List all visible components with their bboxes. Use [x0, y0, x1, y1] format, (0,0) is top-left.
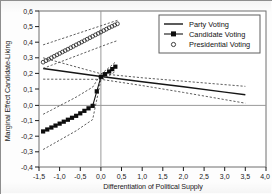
- y-tick-label: 0,1: [23, 86, 33, 93]
- x-tick-label: -1,0: [54, 173, 66, 180]
- chart-legend: Party Voting Candidate Voting Presidenti…: [159, 15, 260, 53]
- marker-candidate: [78, 111, 82, 115]
- y-tick-label: -0,4: [21, 164, 33, 171]
- x-tick-label: 1,0: [137, 173, 147, 180]
- x-tick-label: 0,5: [117, 173, 127, 180]
- y-tick-label: -0,2: [21, 133, 33, 140]
- figure-container: 0,6 0,5 0,4 0,3 0,2 0,1 0,0 -0,1 -0,2 -0…: [0, 0, 272, 194]
- y-tick-label: 0,4: [23, 39, 33, 46]
- marker-candidate: [95, 89, 99, 93]
- x-tick-label: 3,0: [220, 173, 230, 180]
- x-tick-label: 3,5: [240, 173, 250, 180]
- marker-candidate: [53, 123, 57, 127]
- marker-candidate: [66, 118, 70, 122]
- marker-candidate: [49, 125, 53, 129]
- marginal-effects-chart: 0,6 0,5 0,4 0,3 0,2 0,1 0,0 -0,1 -0,2 -0…: [1, 1, 272, 194]
- marker-candidate: [113, 65, 117, 69]
- y-tick-label: 0,5: [23, 23, 33, 30]
- y-axis-title: Marginal Effect Candidate-Liking: [2, 11, 14, 171]
- legend-label-presidential: Presidential Voting: [189, 40, 250, 49]
- marker-candidate: [103, 72, 107, 76]
- y-tick-label: 0,3: [23, 54, 33, 61]
- legend-swatch-candidate-marker: [171, 31, 176, 36]
- marker-candidate: [58, 122, 62, 126]
- y-tick-label: 0,6: [23, 8, 33, 15]
- y-tick-label: 0,2: [23, 70, 33, 77]
- legend-label-party: Party Voting: [189, 20, 229, 29]
- x-tick-label: 2,5: [199, 173, 209, 180]
- marker-candidate: [99, 75, 103, 79]
- y-tick-label: -0,1: [21, 117, 33, 124]
- marker-candidate: [74, 114, 78, 118]
- marker-candidate: [62, 120, 66, 124]
- x-tick-label: 0,0: [96, 173, 106, 180]
- marker-candidate: [82, 109, 86, 113]
- x-tick-label: 1,5: [158, 173, 168, 180]
- chart-canvas: 0,6 0,5 0,4 0,3 0,2 0,1 0,0 -0,1 -0,2 -0…: [1, 1, 272, 194]
- x-axis-title: Differentiation of Political Supply: [39, 182, 267, 191]
- marker-candidate: [86, 106, 90, 110]
- x-tick-label: -0,5: [74, 173, 86, 180]
- marker-candidate: [41, 129, 45, 133]
- x-tick-label: 4,0: [260, 173, 270, 180]
- x-tick-label: -1,5: [33, 173, 45, 180]
- x-tick-label: 2,0: [179, 173, 189, 180]
- y-tick-label: 0,0: [23, 102, 33, 109]
- marker-candidate: [91, 104, 95, 108]
- y-tick-label: -0,3: [21, 148, 33, 155]
- legend-label-candidate: Candidate Voting: [189, 30, 245, 39]
- marker-candidate: [70, 116, 74, 120]
- marker-candidate: [45, 127, 49, 131]
